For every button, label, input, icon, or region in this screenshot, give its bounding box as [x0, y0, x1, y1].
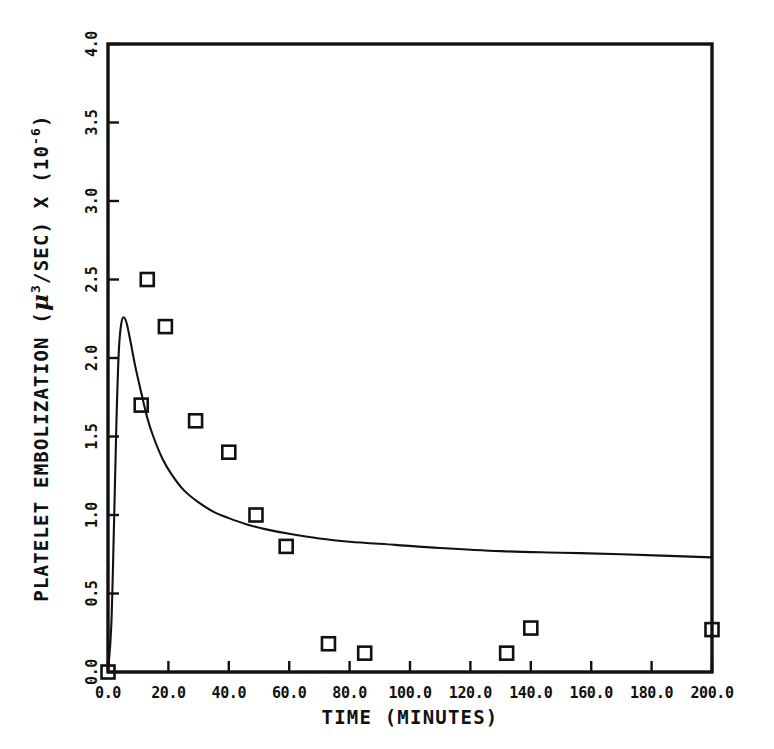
- data-point-marker: [524, 622, 537, 635]
- x-tick-label-140.0: 140.0: [509, 684, 553, 702]
- data-point-marker: [159, 320, 172, 333]
- x-tick-label-100.0: 100.0: [388, 684, 432, 702]
- x-tick-label-20.0: 20.0: [151, 684, 186, 702]
- x-tick-label-60.0: 60.0: [272, 684, 307, 702]
- data-point-marker: [222, 446, 235, 459]
- data-point-marker: [280, 540, 293, 553]
- x-tick-label-40.0: 40.0: [212, 684, 247, 702]
- y-tick-label-4.0: 4.0: [83, 31, 101, 57]
- y-tick-label-3.5: 3.5: [83, 109, 101, 135]
- platelet-embolization-chart: 0.020.040.060.080.0100.0120.0140.0160.01…: [0, 0, 774, 749]
- y-tick-label-2.5: 2.5: [83, 266, 101, 292]
- data-point-marker: [358, 647, 371, 660]
- x-tick-label-180.0: 180.0: [630, 684, 674, 702]
- y-tick-label-1.0: 1.0: [83, 502, 101, 528]
- y-tick-label-3.0: 3.0: [83, 188, 101, 214]
- data-point-marker: [322, 637, 335, 650]
- axes-frame: [108, 44, 712, 672]
- x-tick-label-80.0: 80.0: [332, 684, 367, 702]
- x-tick-label-200.0: 200.0: [690, 684, 734, 702]
- x-tick-label-120.0: 120.0: [449, 684, 493, 702]
- plot-frame: [108, 44, 712, 672]
- data-point-marker: [249, 509, 262, 522]
- figure-container: 0.020.040.060.080.0100.0120.0140.0160.01…: [0, 0, 774, 749]
- data-point-markers: [102, 273, 719, 679]
- model-fit-curve: [108, 317, 712, 672]
- y-axis-title: PLATELET EMBOLIZATION (μ3/SEC) X (10-6): [26, 114, 53, 602]
- data-point-marker: [141, 273, 154, 286]
- y-tick-label-0.5: 0.5: [83, 580, 101, 606]
- data-point-marker: [189, 414, 202, 427]
- x-axis-tick-labels: 0.020.040.060.080.0100.0120.0140.0160.01…: [95, 684, 734, 702]
- y-axis-title-text: PLATELET EMBOLIZATION (μ3/SEC) X (10-6): [26, 114, 53, 602]
- y-tick-label-1.5: 1.5: [83, 423, 101, 449]
- x-tick-label-0.0: 0.0: [95, 684, 121, 702]
- y-axis-tick-labels: 0.00.51.01.52.02.53.03.54.0: [83, 31, 101, 685]
- y-tick-label-0.0: 0.0: [83, 659, 101, 685]
- y-tick-label-2.0: 2.0: [83, 345, 101, 371]
- data-point-marker: [500, 647, 513, 660]
- x-axis-title: TIME (MINUTES): [322, 706, 499, 728]
- x-tick-label-160.0: 160.0: [570, 684, 614, 702]
